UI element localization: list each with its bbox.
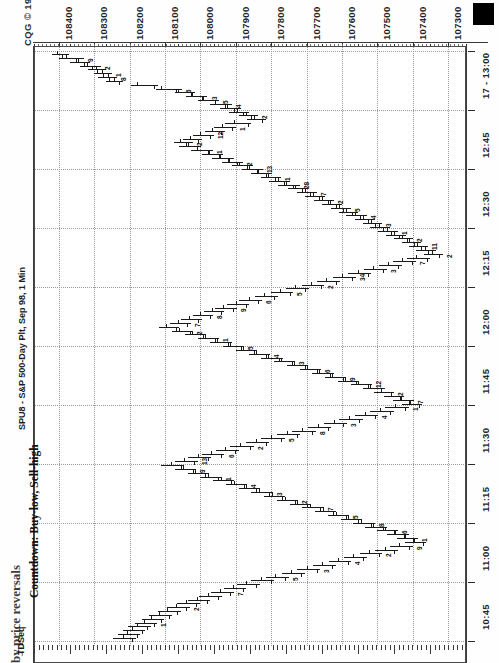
bar-open-tick [319,197,320,200]
time-minor-tick [412,645,413,650]
price-bar[interactable] [225,123,250,124]
td-sequential-count-label: 3 [390,270,397,274]
td-sequential-count-label: 1 [222,339,229,343]
price-bar[interactable] [186,96,207,97]
bar-close-tick [248,124,249,127]
time-minor-tick [39,645,40,650]
price-bar[interactable] [222,162,243,163]
bar-open-tick [421,247,422,250]
time-tick-dash [468,523,475,524]
time-tick-dash [468,169,475,170]
time-minor-tick [57,645,58,650]
price-plot-area[interactable]: 9218635421122121312872543121127334256987… [34,46,466,646]
time-minor-tick [61,645,62,650]
time-minor-tick [435,645,436,650]
bar-open-tick [247,166,248,169]
bar-close-tick [317,570,318,573]
time-tick-dash [468,641,475,642]
td-sequential-count-label: 9 [87,58,94,62]
bar-open-tick [171,462,172,465]
bar-open-tick [297,501,298,504]
bar-open-tick [251,116,252,119]
bar-open-tick [211,451,212,454]
price-bar[interactable] [278,185,299,186]
td-sequential-count-label: 2 [397,392,404,396]
td-sequential-count-label: 8 [216,316,223,320]
td-sequential-count-label: 7 [419,262,426,266]
time-minor-tick [466,645,467,654]
time-tick-dash [468,51,475,52]
price-bar[interactable] [314,200,335,201]
price-bar[interactable] [59,58,84,59]
td-sequential-count-label: 2 [416,239,423,243]
td-sequential-count-label: 34 [359,274,366,281]
td-sequential-count-label: 8 [378,523,385,527]
time-minor-tick [295,645,296,650]
bar-open-tick [414,243,415,246]
bar-open-tick [395,404,396,407]
price-bar[interactable] [297,192,318,193]
td-sequential-count-label: 8 [120,77,127,81]
time-minor-tick [291,645,292,650]
price-tick-label: 107500 [381,6,392,40]
price-bar[interactable] [346,215,367,216]
time-minor-tick [345,645,346,650]
time-minor-tick [115,645,116,650]
time-minor-tick [255,645,256,650]
time-minor-tick [48,645,49,650]
bar-close-tick [274,297,275,300]
price-tick-label: 107600 [346,6,357,40]
price-bar[interactable] [242,169,263,170]
time-tick-dash [468,228,475,229]
bar-open-tick [370,385,371,388]
time-minor-tick [102,645,103,650]
time-minor-tick [372,645,373,650]
td-sequential-count-label: 13 [266,166,273,173]
bar-open-tick [342,274,343,277]
time-minor-tick [417,645,418,650]
td-sequential-count-label: 1 [160,623,167,627]
price-bar[interactable] [251,173,272,174]
bar-open-tick [310,193,311,196]
price-bar[interactable] [331,208,351,209]
bar-open-tick [385,547,386,550]
price-bar[interactable] [80,66,101,67]
td-sequential-count-label: 2 [261,116,268,120]
bar-close-tick [271,581,272,584]
time-minor-tick [151,645,152,650]
bar-close-tick [256,585,257,588]
bar-open-tick [402,258,403,261]
bar-open-tick [186,600,187,603]
bar-open-tick [280,289,281,292]
price-tick-label: 107900 [240,6,251,40]
bar-open-tick [184,458,185,461]
bar-open-tick [281,358,282,361]
bar-close-tick [232,128,233,131]
bar-close-tick [375,416,376,419]
time-minor-tick [390,645,391,650]
bar-open-tick [222,124,223,127]
bar-close-tick [177,612,178,615]
bar-open-tick [186,143,187,146]
price-bar[interactable] [210,104,231,105]
bar-open-tick [264,293,265,296]
bar-open-tick [365,412,366,415]
bar-close-tick [427,259,428,262]
time-minor-tick [183,645,184,650]
bar-close-tick [137,635,138,638]
bar-open-tick [343,209,344,212]
td-sequential-count-label: 6 [228,454,235,458]
bar-close-tick [383,270,384,273]
bar-open-tick [221,477,222,480]
price-bar[interactable] [174,142,193,143]
bar-open-tick [323,508,324,511]
bar-close-tick [142,631,143,634]
time-minor-tick [381,645,382,650]
price-bar[interactable] [212,158,233,159]
bar-open-tick [358,270,359,273]
bar-open-tick [200,312,201,315]
time-tick-dash [468,346,475,347]
bar-open-tick [233,585,234,588]
td-sequential-count-label: 6 [185,89,192,93]
td-sequential-count-label: 5 [247,346,254,350]
